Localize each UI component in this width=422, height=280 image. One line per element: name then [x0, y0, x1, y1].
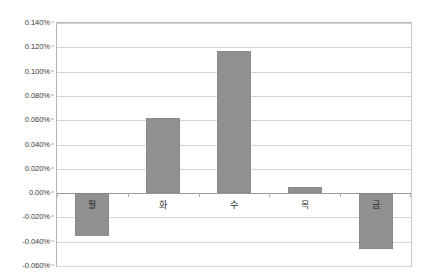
y-tick-label: 0.080% — [25, 90, 50, 99]
y-tick-mark — [51, 192, 54, 193]
y-tick-mark — [51, 70, 54, 71]
x-category-label: 화 — [159, 198, 167, 211]
y-tick-mark — [51, 265, 54, 266]
x-tick-mark — [199, 193, 200, 197]
x-tick-mark — [410, 193, 411, 197]
bar — [288, 187, 322, 193]
y-tick-mark — [51, 167, 54, 168]
y-tick-label: 0.140% — [25, 18, 50, 27]
y-tick-mark — [51, 22, 54, 23]
y-tick-label: 0.120% — [25, 42, 50, 51]
bar-chart: 0.140%0.120%0.100%0.080%0.060%0.040%0.02… — [0, 0, 422, 280]
y-tick-label: 0.100% — [25, 66, 50, 75]
x-category-label: 금 — [372, 198, 380, 211]
y-tick-label: 0.060% — [25, 115, 50, 124]
y-tick-mark — [51, 143, 54, 144]
bar — [217, 51, 251, 193]
y-tick-label: -0.040% — [22, 236, 50, 245]
y-tick-label: 0.00% — [29, 188, 50, 197]
y-tick-label: 0.020% — [25, 163, 50, 172]
gridline — [57, 266, 411, 267]
x-category-label: 목 — [301, 198, 309, 211]
plot-area: 월화수목금 — [56, 22, 412, 267]
y-tick-mark — [51, 46, 54, 47]
x-category-label: 월 — [88, 198, 96, 211]
x-tick-mark — [340, 193, 341, 197]
x-category-label: 수 — [230, 198, 238, 211]
y-tick-mark — [51, 240, 54, 241]
y-axis: 0.140%0.120%0.100%0.080%0.060%0.040%0.02… — [0, 22, 54, 267]
bars-layer: 월화수목금 — [57, 23, 411, 266]
y-tick-mark — [51, 216, 54, 217]
y-tick-label: -0.020% — [22, 212, 50, 221]
x-tick-mark — [269, 193, 270, 197]
y-tick-label: 0.040% — [25, 139, 50, 148]
y-tick-mark — [51, 119, 54, 120]
x-tick-mark — [57, 193, 58, 197]
x-tick-mark — [128, 193, 129, 197]
bar — [146, 118, 180, 193]
y-tick-mark — [51, 94, 54, 95]
y-tick-label: -0.060% — [22, 261, 50, 270]
